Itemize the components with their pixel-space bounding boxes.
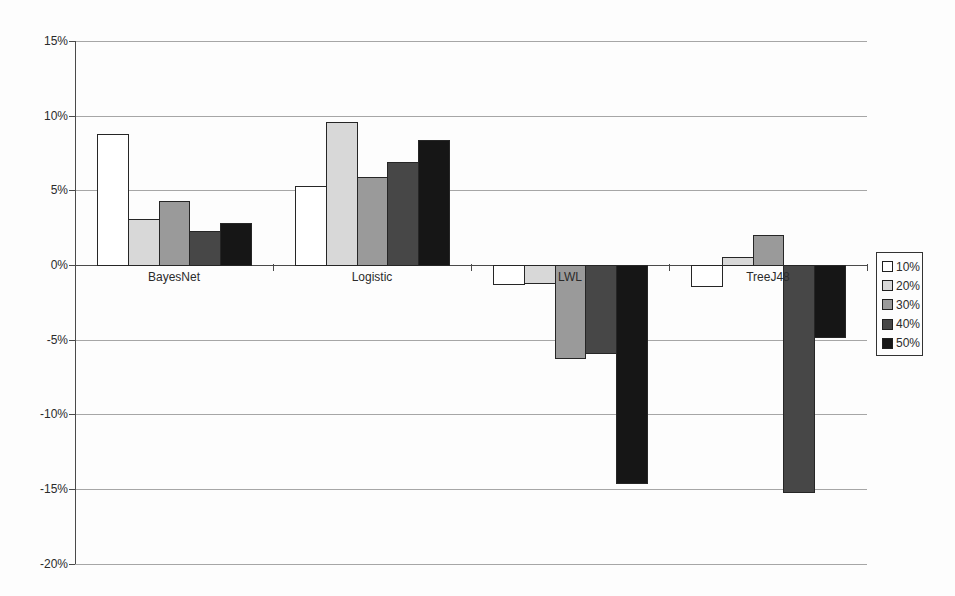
bar-lwl-40% — [585, 265, 617, 354]
legend-swatch-icon — [882, 338, 893, 349]
bar-bayesnet-30% — [159, 201, 191, 266]
legend-entry-40%: 40% — [882, 315, 918, 334]
gridline — [75, 564, 867, 565]
bar-logistic-50% — [418, 140, 450, 266]
grouped-bar-chart: 15%10%5%0%-5%-10%-15%-20%BayesNetLogisti… — [0, 0, 955, 596]
legend-label: 50% — [896, 337, 920, 349]
bar-lwl-10% — [493, 265, 525, 285]
category-label-lwl: LWL — [558, 270, 582, 284]
gridline — [75, 41, 867, 42]
legend: 10%20%30%40%50% — [876, 252, 923, 356]
legend-entry-50%: 50% — [882, 334, 918, 353]
category-tick — [471, 264, 472, 271]
y-axis-tick — [69, 564, 75, 565]
bar-bayesnet-10% — [97, 134, 129, 266]
legend-entry-10%: 10% — [882, 257, 918, 276]
bar-logistic-40% — [387, 162, 419, 266]
bar-lwl-20% — [524, 265, 556, 284]
bar-logistic-30% — [357, 177, 389, 266]
y-axis-tick-label: -5% — [22, 333, 68, 347]
legend-entry-30%: 30% — [882, 295, 918, 314]
category-tick — [273, 264, 274, 271]
legend-swatch-icon — [882, 319, 893, 330]
legend-swatch-icon — [882, 261, 893, 272]
bar-bayesnet-50% — [220, 223, 252, 266]
bar-bayesnet-40% — [189, 231, 221, 266]
legend-label: 10% — [896, 261, 920, 273]
bar-logistic-20% — [326, 122, 358, 266]
bar-logistic-10% — [295, 186, 327, 266]
bar-treej48-50% — [814, 265, 846, 338]
legend-label: 30% — [896, 299, 920, 311]
bar-treej48-20% — [722, 257, 754, 265]
gridline — [75, 489, 867, 490]
category-tick — [75, 264, 76, 271]
y-axis-tick-label: -15% — [22, 482, 68, 496]
category-tick — [669, 264, 670, 271]
gridline — [75, 414, 867, 415]
category-label-logistic: Logistic — [352, 270, 393, 284]
bar-bayesnet-20% — [128, 219, 160, 266]
y-axis-tick-label: 15% — [22, 34, 68, 48]
legend-swatch-icon — [882, 299, 893, 310]
legend-swatch-icon — [882, 280, 893, 291]
bar-treej48-40% — [783, 265, 815, 493]
bar-treej48-30% — [753, 235, 785, 266]
y-axis-tick-label: 5% — [22, 183, 68, 197]
category-label-treej48: TreeJ48 — [746, 270, 790, 284]
y-axis-tick-label: -20% — [22, 557, 68, 571]
gridline — [75, 340, 867, 341]
category-label-bayesnet: BayesNet — [148, 270, 200, 284]
legend-label: 40% — [896, 318, 920, 330]
legend-label: 20% — [896, 280, 920, 292]
gridline — [75, 190, 867, 191]
bar-lwl-50% — [616, 265, 648, 484]
legend-entry-20%: 20% — [882, 276, 918, 295]
y-axis-tick-label: -10% — [22, 407, 68, 421]
y-axis-tick-label: 10% — [22, 109, 68, 123]
bar-treej48-10% — [691, 265, 723, 287]
y-axis-line — [75, 41, 76, 564]
gridline — [75, 116, 867, 117]
y-axis-tick-label: 0% — [22, 258, 68, 272]
category-tick — [867, 264, 868, 271]
